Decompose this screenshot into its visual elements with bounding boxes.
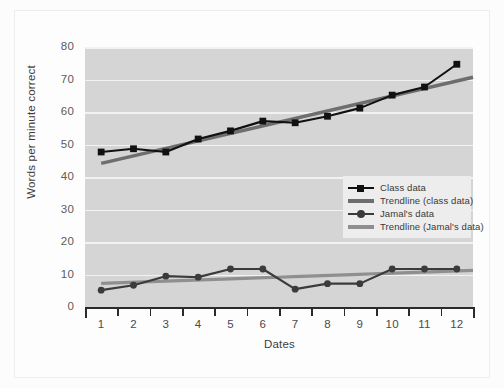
x-tick-label: 1	[86, 318, 116, 330]
data-point-marker	[356, 280, 363, 287]
data-point-marker	[356, 105, 363, 112]
x-tick	[117, 307, 119, 316]
data-point-marker	[130, 145, 137, 152]
y-tick-label: 30	[40, 203, 74, 215]
y-tick-label: 0	[40, 300, 74, 312]
data-point-marker	[259, 266, 266, 273]
y-tick-label: 10	[40, 268, 74, 280]
legend-label: Class data	[380, 182, 426, 193]
x-tick	[408, 307, 410, 316]
legend-item[interactable]: Class data	[348, 181, 465, 194]
data-point-marker	[162, 273, 169, 280]
x-tick	[150, 307, 152, 316]
y-tick-label: 50	[40, 138, 74, 150]
data-point-marker	[421, 84, 428, 91]
data-point-marker	[98, 149, 105, 156]
data-point-marker	[292, 119, 299, 126]
legend-item[interactable]: Trendline (Jamal's data)	[348, 220, 465, 233]
y-tick-label: 80	[40, 40, 74, 52]
x-tick-label: 11	[410, 318, 440, 330]
jamal-data-series	[98, 266, 460, 294]
data-point-marker	[389, 92, 396, 99]
legend: Class dataTrendline (class data)Jamal's …	[343, 176, 471, 238]
plot-area: Class dataTrendline (class data)Jamal's …	[85, 48, 473, 308]
x-tick-label: 6	[248, 318, 278, 330]
y-axis-title: Words per minute correct	[25, 47, 37, 217]
y-tick-label: 60	[40, 105, 74, 117]
x-tick-label: 9	[345, 318, 375, 330]
legend-item[interactable]: Jamal's data	[348, 207, 465, 220]
data-point-marker	[162, 149, 169, 156]
legend-label: Trendline (Jamal's data)	[380, 221, 484, 232]
x-tick	[279, 307, 281, 316]
x-tick	[441, 307, 443, 316]
x-tick-label: 4	[183, 318, 213, 330]
x-tick	[214, 307, 216, 316]
jamal-trendline	[101, 270, 473, 283]
x-tick-label: 3	[151, 318, 181, 330]
x-tick	[344, 307, 346, 316]
data-point-marker	[389, 266, 396, 273]
x-tick-label: 12	[442, 318, 472, 330]
data-point-marker	[453, 61, 460, 68]
data-point-marker	[130, 282, 137, 289]
x-tick-label: 2	[119, 318, 149, 330]
data-point-marker	[324, 280, 331, 287]
y-tick-label: 70	[40, 73, 74, 85]
y-tick-label: 40	[40, 170, 74, 182]
x-tick-label: 10	[377, 318, 407, 330]
x-tick-label: 5	[216, 318, 246, 330]
data-point-marker	[324, 113, 331, 120]
x-axis-title: Dates	[85, 338, 474, 350]
x-axis-end-tick	[85, 307, 87, 318]
x-axis-end-tick	[473, 307, 475, 318]
x-tick-label: 7	[280, 318, 310, 330]
data-point-marker	[227, 266, 234, 273]
data-point-marker	[259, 118, 266, 125]
data-point-marker	[421, 266, 428, 273]
data-point-marker	[227, 127, 234, 134]
x-tick	[182, 307, 184, 316]
legend-key-icon	[348, 182, 374, 193]
x-tick	[311, 307, 313, 316]
data-point-marker	[195, 136, 202, 143]
data-point-marker	[195, 274, 202, 281]
legend-item[interactable]: Trendline (class data)	[348, 194, 465, 207]
legend-label: Jamal's data	[380, 208, 434, 219]
x-tick-label: 8	[313, 318, 343, 330]
x-tick	[247, 307, 249, 316]
y-tick-label: 20	[40, 235, 74, 247]
legend-label: Trendline (class data)	[380, 195, 473, 206]
data-point-marker	[292, 286, 299, 293]
legend-key-icon	[348, 221, 374, 232]
chart-figure: Words per minute correct 010203040506070…	[0, 0, 504, 388]
data-point-marker	[98, 287, 105, 294]
x-tick	[376, 307, 378, 316]
legend-key-icon	[348, 208, 374, 219]
class-data-series	[98, 61, 460, 156]
data-point-marker	[453, 266, 460, 273]
legend-key-icon	[348, 195, 374, 206]
